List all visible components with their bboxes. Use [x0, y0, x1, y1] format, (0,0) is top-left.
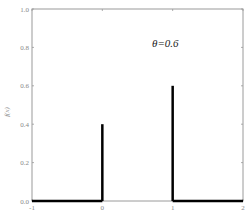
- plot-border: [32, 9, 243, 201]
- x-tick-label: 1: [171, 204, 175, 212]
- y-tick-label: 0.6: [20, 82, 29, 90]
- plot-frame: [32, 9, 243, 201]
- y-axis-label: f(x): [3, 106, 11, 116]
- theta-annotation: θ=0.6: [152, 37, 179, 49]
- y-tick-label: 0.2: [20, 159, 29, 167]
- y-tick-label: 0.8: [20, 44, 29, 52]
- x-tick-label: 2: [241, 204, 245, 212]
- x-tick-label: -1: [29, 204, 35, 212]
- pmf-stems: [32, 86, 243, 201]
- x-axis-ticks: -1012: [29, 9, 245, 212]
- y-axis-ticks: 0.00.20.40.60.81.0: [20, 6, 243, 206]
- y-tick-label: 1.0: [20, 6, 29, 14]
- x-tick-label: 0: [101, 204, 105, 212]
- bernoulli-pmf-chart: 0.00.20.40.60.81.0 -1012 θ=0.6 f(x): [0, 0, 248, 221]
- y-tick-label: 0.4: [20, 121, 29, 129]
